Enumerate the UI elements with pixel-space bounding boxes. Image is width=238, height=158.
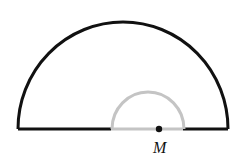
point-m-label: M: [152, 139, 168, 156]
point-m: [156, 126, 162, 132]
large-semicircle-arc: [18, 22, 228, 129]
small-semicircle-arc: [112, 92, 184, 129]
semicircle-diagram: M: [0, 0, 238, 158]
